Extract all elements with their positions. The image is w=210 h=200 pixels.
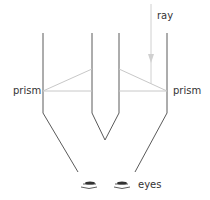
ray-arrowhead-icon: [148, 54, 154, 63]
periscope-binocular-diagram: ray prism prism eyes: [0, 0, 210, 200]
eyes-icon: [81, 181, 130, 188]
left-eye-icon: [81, 181, 97, 188]
left-prism-face: [43, 69, 92, 91]
left-tube-outer-wall: [43, 33, 78, 172]
left-tube-inner-wall: [92, 33, 105, 140]
right-prism-label: prism: [173, 85, 201, 96]
right-prism-face: [119, 69, 167, 91]
left-prism-label: prism: [13, 85, 41, 96]
ray-label: ray: [157, 10, 173, 21]
left-tube: [43, 33, 105, 172]
right-eye-icon: [114, 181, 130, 188]
right-tube: [105, 33, 167, 172]
eyes-label: eyes: [138, 179, 161, 190]
right-tube-inner-wall: [105, 33, 119, 140]
prisms: [43, 69, 167, 91]
ray-arrow: [148, 4, 154, 84]
